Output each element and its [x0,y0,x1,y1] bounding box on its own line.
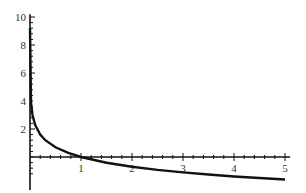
x-tick-label: 5 [282,162,288,174]
tick-labels: 12345246810 [15,11,288,174]
axes [30,14,290,190]
x-tick-label: 4 [231,162,237,174]
ticks [30,17,285,174]
line-chart: 12345246810 [0,0,306,193]
y-tick-label: 8 [21,39,27,51]
y-tick-label: 2 [21,123,27,135]
y-tick-label: 10 [15,11,27,23]
y-tick-label: 6 [21,67,27,79]
x-tick-label: 1 [78,162,84,174]
y-tick-label: 4 [21,95,27,107]
